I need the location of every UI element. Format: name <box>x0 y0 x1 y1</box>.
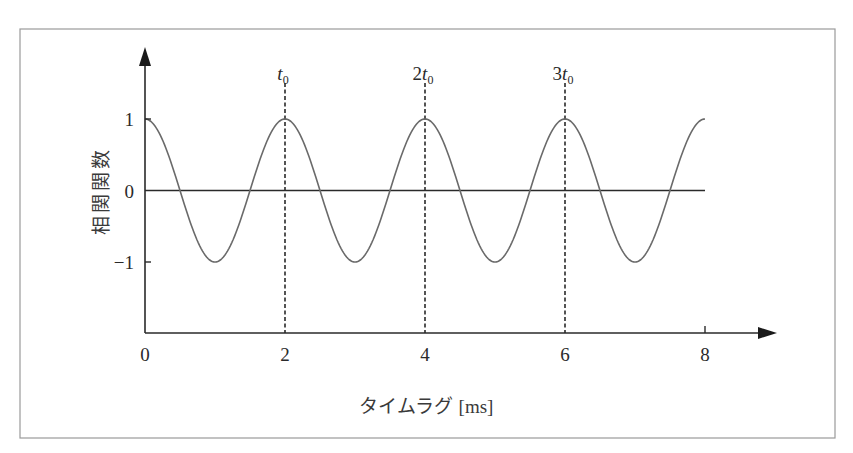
y-tick-label: 0 <box>125 181 135 202</box>
y-tick-label: 1 <box>125 109 135 130</box>
autocorrelation-chart: t02t03t0 02468 10−1 相関関数 タイムラグ [ms] <box>0 0 853 453</box>
x-axis-label: タイムラグ [ms] <box>359 395 494 417</box>
chart-frame <box>20 29 835 438</box>
reference-label-1: t0 <box>277 63 288 87</box>
x-tick-label: 6 <box>560 344 570 365</box>
x-tick-label: 2 <box>280 344 290 365</box>
x-axis-arrow-icon <box>758 327 777 339</box>
x-tick-label: 0 <box>140 344 150 365</box>
y-tick-label: −1 <box>114 252 134 273</box>
x-tick-label: 8 <box>700 344 710 365</box>
x-tick-label: 4 <box>420 344 430 365</box>
reference-label-2: 2t0 <box>413 63 434 87</box>
y-axis-label: 相関関数 <box>90 147 112 235</box>
y-axis-arrow-icon <box>139 47 151 66</box>
reference-label-3: 3t0 <box>553 63 574 87</box>
